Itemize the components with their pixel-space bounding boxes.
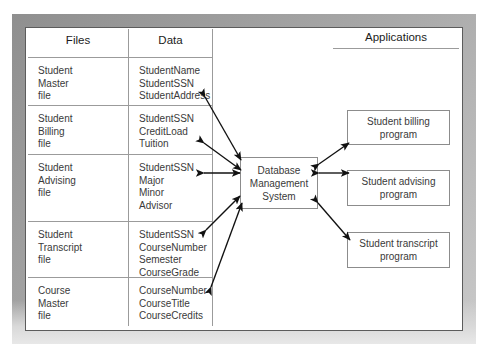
file-data-cell: StudentNameStudentSSNStudentAddress [128, 65, 238, 103]
file-data-cell: StudentSSNMajorMinorAdvisor [128, 162, 238, 212]
file-name-cell: StudentAdvisingfile [38, 162, 126, 200]
applications-heading: Applications [333, 31, 459, 43]
files-data-table: Files Data StudentMasterfile StudentName… [28, 29, 213, 326]
table-row: StudentMasterfile StudentNameStudentSSNS… [28, 58, 213, 106]
application-box-student-billing: Student billingprogram [347, 110, 450, 145]
table-header-files: Files [28, 34, 128, 46]
table-right-border [212, 29, 213, 326]
file-name-cell: StudentMasterfile [38, 65, 126, 103]
file-name-cell: StudentTranscriptfile [38, 229, 126, 267]
application-box-student-transcript: Student transcriptprogram [347, 232, 450, 268]
file-name-cell: CourseMasterfile [38, 285, 126, 323]
file-name-cell: StudentBillingfile [38, 113, 126, 151]
table-header-data: Data [128, 34, 213, 46]
table-row: StudentAdvisingfile StudentSSNMajorMinor… [28, 155, 213, 222]
file-data-cell: StudentSSNCreditLoadTuition [128, 113, 238, 151]
table-row: CourseMasterfile CourseNumberCourseTitle… [28, 278, 213, 326]
table-header-row: Files Data [28, 29, 213, 57]
dbms-box: DatabaseManagementSystem [240, 157, 318, 209]
applications-heading-underline [333, 48, 459, 49]
table-row: StudentTranscriptfile StudentSSNCourseNu… [28, 222, 213, 278]
diagram-root: Files Data StudentMasterfile StudentName… [0, 0, 488, 358]
application-box-student-advising: Student advisingprogram [347, 170, 450, 206]
file-data-cell: StudentSSNCourseNumberSemesterCourseGrad… [128, 229, 238, 279]
file-data-cell: CourseNumberCourseTitleCourseCredits [128, 285, 238, 323]
table-row: StudentBillingfile StudentSSNCreditLoadT… [28, 106, 213, 155]
